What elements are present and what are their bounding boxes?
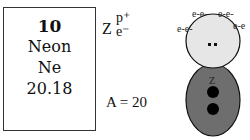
electron-cloud-shape: [186, 14, 240, 68]
core-label: Z: [209, 75, 215, 86]
atom-model-diagram: Z e-e- e-e- e-e- e-e: [0, 0, 250, 140]
electron-pair-label: e-e-: [177, 23, 193, 34]
electron-pair-label: e-e-: [218, 8, 234, 19]
nucleus-dot: [207, 103, 219, 115]
electron-pair-label: e-e: [233, 20, 246, 31]
nucleus-dot: [207, 86, 219, 98]
electron-pair-label: e-e-: [192, 8, 208, 19]
cloud-dot: [208, 43, 211, 46]
cloud-dot: [214, 43, 217, 46]
